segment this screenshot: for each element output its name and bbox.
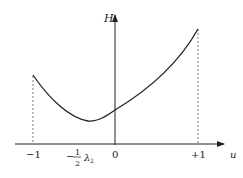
min-marker-label: − 1 2 λ 2: [66, 148, 94, 168]
tick-label-plus-1: +1: [191, 149, 206, 160]
svg-text:2: 2: [75, 159, 80, 168]
diagram-canvas: H u −1 0 +1 − 1 2 λ 2: [0, 0, 243, 178]
svg-text:1: 1: [75, 148, 80, 157]
tick-label-zero: 0: [112, 149, 118, 160]
svg-text:−: −: [66, 151, 74, 162]
svg-text:2: 2: [90, 157, 94, 164]
x-axis-label: u: [230, 149, 236, 160]
y-axis-label: H: [103, 12, 114, 25]
tick-label-minus-1: −1: [26, 149, 41, 160]
